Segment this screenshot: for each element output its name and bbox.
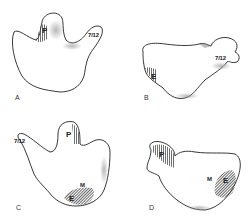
shape-c [0,110,125,219]
region-label-e: E [223,176,228,185]
region-label-e: E [151,72,156,81]
region-label-p: P [159,150,164,159]
region-label-p: P [66,130,71,139]
region-label-p: P [42,26,47,35]
panel-a: P 7/12 A [0,0,125,110]
panel-c: P M E 7/12 C [0,110,125,219]
region-label-7-12: 7/12 [88,32,99,38]
shape-d [125,110,250,219]
region-label-m: M [80,182,85,188]
region-label-m: M [207,176,212,182]
panel-label-a: A [15,94,20,101]
region-label-e: E [69,194,74,203]
panel-label-c: C [16,204,21,211]
panel-d: P M E D [125,110,250,219]
panel-b: E 7/12 B [125,0,250,110]
region-label-7-12: 7/12 [215,55,226,61]
region-label-7-12: 7/12 [14,138,25,144]
panel-label-b: B [144,94,149,101]
panel-label-d: D [149,204,154,211]
